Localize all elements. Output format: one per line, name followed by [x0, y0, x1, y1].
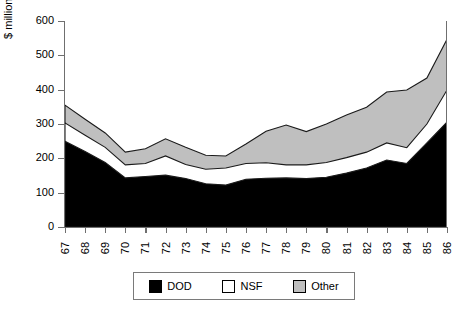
y-tick-mark: [58, 193, 64, 194]
legend-item-other[interactable]: Other: [293, 280, 339, 293]
chart-container: $ millions (constant) 010020030040050060…: [0, 0, 471, 312]
legend-swatch-other: [293, 280, 306, 293]
x-tick-label: 86: [441, 237, 453, 259]
x-tick-mark: [145, 228, 146, 233]
x-tick-label: 79: [300, 237, 312, 259]
legend-label: Other: [311, 280, 339, 292]
legend-swatch-nsf: [222, 280, 235, 293]
x-tick-label: 75: [220, 237, 232, 259]
x-tick-mark: [65, 228, 66, 233]
legend-item-nsf[interactable]: NSF: [222, 280, 262, 293]
x-tick-mark: [306, 228, 307, 233]
x-tick-label: 70: [119, 237, 131, 259]
x-tick-label: 72: [160, 237, 172, 259]
x-tick-label: 82: [361, 237, 373, 259]
x-tick-mark: [166, 228, 167, 233]
x-tick-mark: [286, 228, 287, 233]
x-tick-label: 68: [79, 237, 91, 259]
x-tick-mark: [186, 228, 187, 233]
x-tick-label: 81: [341, 237, 353, 259]
y-tick-mark: [58, 55, 64, 56]
x-tick-label: 76: [240, 237, 252, 259]
y-axis-title: $ millions (constant): [2, 0, 14, 60]
x-tick-mark: [427, 228, 428, 233]
y-tick-label: 100: [20, 186, 54, 198]
chart-legend: DODNSFOther: [133, 272, 355, 300]
x-tick-mark: [206, 228, 207, 233]
x-tick-mark: [407, 228, 408, 233]
y-axis-line: [64, 21, 65, 228]
legend-swatch-dod: [149, 280, 162, 293]
y-tick-mark: [58, 90, 64, 91]
x-tick-mark: [266, 228, 267, 233]
x-tick-label: 73: [180, 237, 192, 259]
x-tick-mark: [85, 228, 86, 233]
x-tick-mark: [105, 228, 106, 233]
x-tick-mark: [347, 228, 348, 233]
x-tick-label: 84: [401, 237, 413, 259]
x-tick-mark: [226, 228, 227, 233]
legend-item-dod[interactable]: DOD: [149, 280, 191, 293]
x-tick-label: 83: [381, 237, 393, 259]
stacked-area-svg: [65, 21, 447, 227]
y-tick-mark: [58, 21, 64, 22]
x-tick-mark: [447, 228, 448, 233]
legend-label: NSF: [240, 280, 262, 292]
legend-label: DOD: [167, 280, 191, 292]
x-tick-label: 69: [99, 237, 111, 259]
x-tick-mark: [326, 228, 327, 233]
x-tick-label: 67: [59, 237, 71, 259]
y-tick-mark: [58, 158, 64, 159]
x-tick-label: 80: [320, 237, 332, 259]
x-tick-label: 74: [200, 237, 212, 259]
x-tick-label: 78: [280, 237, 292, 259]
x-tick-mark: [367, 228, 368, 233]
y-tick-label: 0: [20, 220, 54, 232]
y-tick-label: 500: [20, 48, 54, 60]
x-tick-mark: [125, 228, 126, 233]
y-tick-mark: [58, 227, 64, 228]
x-tick-label: 71: [139, 237, 151, 259]
y-tick-label: 200: [20, 151, 54, 163]
x-tick-mark: [387, 228, 388, 233]
x-tick-label: 77: [260, 237, 272, 259]
plot-area: [65, 21, 447, 227]
x-tick-label: 85: [421, 237, 433, 259]
y-tick-label: 600: [20, 14, 54, 26]
y-tick-label: 300: [20, 117, 54, 129]
x-tick-mark: [246, 228, 247, 233]
y-tick-label: 400: [20, 83, 54, 95]
x-axis-line: [64, 227, 448, 228]
plot-right-edge: [446, 21, 447, 228]
y-tick-mark: [58, 124, 64, 125]
